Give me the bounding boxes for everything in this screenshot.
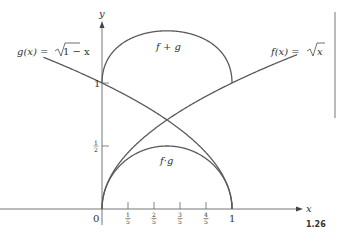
svg-text:x: x (317, 46, 323, 57)
x-tick-numerator: 1 (126, 211, 130, 218)
curve-fplusg (102, 31, 232, 83)
x-tick-denominator: 5 (178, 218, 182, 225)
x-tick-numerator: 4 (204, 211, 208, 218)
curve-g (44, 57, 233, 209)
origin-label: 0 (93, 213, 99, 224)
curves (44, 31, 298, 209)
svg-text:f(x) =: f(x) = (270, 46, 300, 57)
x-axis-label: x (306, 203, 312, 214)
f-curve-label: f(x) = x (270, 43, 325, 57)
curve-f (102, 55, 297, 209)
figure-number: 1.26 (306, 220, 326, 229)
sum-curve-label: f + g (155, 41, 181, 52)
x-tick-numerator: 3 (178, 211, 182, 218)
y-axis-arrow-icon (100, 21, 105, 28)
y-tick-numerator: 1 (94, 139, 98, 146)
svg-text:1 − x: 1 − x (63, 46, 90, 57)
x-tick-numerator: 2 (152, 211, 156, 218)
x-tick-denominator: 5 (126, 218, 130, 225)
x-tick-denominator: 5 (204, 218, 208, 225)
y-tick-denominator: 2 (94, 146, 98, 153)
x-tick-denominator: 5 (152, 218, 156, 225)
function-plot: 1525354512 y x 0 1 1 g(x) = 1 − x f(x) =… (0, 0, 344, 245)
product-curve-label: f·g (159, 155, 173, 166)
y-axis-label: y (98, 8, 105, 19)
g-curve-label: g(x) = 1 − x (17, 43, 90, 57)
x-tick-one-label: 1 (229, 213, 235, 224)
x-axis-arrow-icon (296, 207, 303, 212)
y-tick-one-label: 1 (94, 78, 100, 89)
svg-text:g(x) =: g(x) = (17, 46, 48, 57)
axis-ticks: 1525354512 (94, 83, 233, 225)
